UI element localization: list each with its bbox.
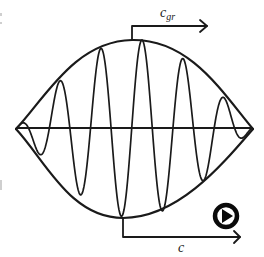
phase-velocity-label: c xyxy=(178,240,185,255)
edge-artifacts xyxy=(0,13,2,190)
group-velocity-label: cgr xyxy=(160,5,175,22)
wave-packet-diagram: cgr c xyxy=(0,0,264,257)
lower-envelope xyxy=(16,129,253,218)
group-velocity-arrow xyxy=(132,20,207,40)
play-circle-icon[interactable] xyxy=(215,205,237,227)
